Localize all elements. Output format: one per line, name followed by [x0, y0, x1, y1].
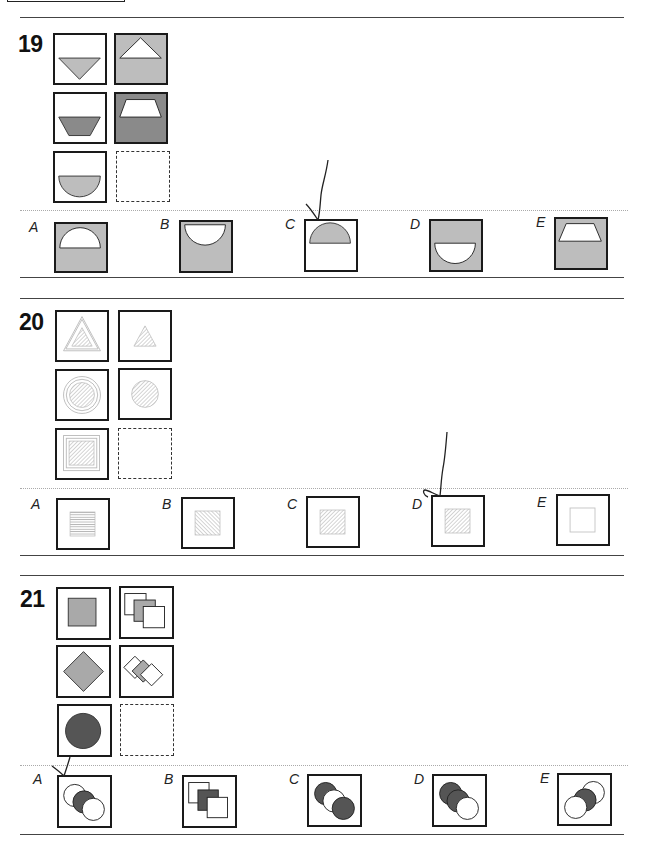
option-e[interactable] [554, 217, 608, 270]
section-divider [20, 277, 624, 278]
option-label-c: C [287, 496, 297, 512]
inverted-trapezoid-icon [55, 94, 105, 142]
hatched-square-icon [183, 499, 233, 547]
option-label-e: E [537, 494, 546, 510]
option-e[interactable] [556, 494, 610, 546]
grid-cell-r1c2 [114, 33, 168, 85]
three-overlapping-squares-icon [121, 588, 172, 637]
section-divider [20, 575, 624, 576]
option-b[interactable] [181, 497, 235, 549]
option-label-a: A [33, 771, 42, 787]
option-label-c: C [285, 216, 295, 232]
trapezoid-icon [116, 94, 166, 142]
grid-cell-r3c1 [57, 704, 112, 757]
option-c[interactable] [307, 774, 362, 827]
three-overlapping-diamonds-icon [121, 647, 172, 696]
bowl-semicircle-icon [55, 153, 105, 201]
options-separator [20, 488, 628, 489]
question-number: 21 [20, 586, 45, 613]
three-circles-icon [59, 777, 110, 826]
hatched-circle-icon [120, 370, 170, 418]
grid-cell-r3c1 [55, 428, 109, 480]
bowl-semicircle-icon [181, 222, 231, 271]
option-label-d: D [414, 771, 424, 787]
gray-square-icon [58, 589, 109, 638]
option-b[interactable] [179, 220, 233, 273]
option-a[interactable] [54, 222, 108, 273]
option-d[interactable] [429, 219, 483, 272]
option-label-b: B [164, 771, 173, 787]
grid-cell-r2c1 [53, 92, 107, 144]
option-e[interactable] [557, 773, 612, 826]
grid-cell-r2c2 [119, 645, 174, 698]
option-d[interactable] [431, 495, 485, 547]
section-divider [20, 834, 624, 835]
grid-cell-r1c1 [56, 587, 111, 640]
option-a[interactable] [56, 498, 110, 550]
triangle-icon [116, 35, 166, 83]
bowl-semicircle-icon [431, 221, 481, 270]
grid-cell-r1c2 [119, 586, 174, 639]
missing-answer-cell [116, 151, 170, 202]
options-separator [20, 210, 628, 211]
square-in-square-icon [57, 430, 107, 478]
option-c[interactable] [304, 219, 358, 272]
answer-mark-q19 [306, 160, 328, 220]
option-c[interactable] [306, 496, 360, 548]
section-divider [20, 298, 624, 299]
missing-answer-cell [118, 428, 172, 479]
three-circles-icon [309, 776, 360, 825]
circle-in-circle-icon [57, 371, 107, 419]
option-label-b: B [160, 216, 169, 232]
grid-cell-r1c1 [53, 33, 107, 85]
option-b[interactable] [182, 775, 237, 828]
answer-mark-q21 [52, 757, 70, 776]
inverted-triangle-icon [55, 35, 105, 83]
option-label-c: C [289, 771, 299, 787]
previous-section-box [7, 0, 125, 2]
option-a[interactable] [57, 775, 112, 828]
grid-cell-r2c2 [118, 368, 172, 420]
grid-cell-r2c2 [114, 92, 168, 144]
question-number: 19 [18, 31, 43, 58]
hatched-triangle-icon [120, 312, 170, 360]
section-divider [20, 17, 624, 18]
option-d[interactable] [432, 774, 487, 827]
hatched-square-icon [433, 497, 483, 545]
dome-semicircle-icon [306, 221, 356, 270]
missing-answer-cell [120, 704, 174, 756]
dark-circle-icon [59, 706, 110, 755]
trapezoid-icon [556, 219, 606, 268]
three-squares-icon [184, 777, 235, 826]
option-label-b: B [162, 496, 171, 512]
option-label-d: D [410, 216, 420, 232]
section-divider [20, 555, 624, 556]
option-label-a: A [31, 496, 40, 512]
options-separator [20, 765, 628, 766]
grid-cell-r2c1 [56, 645, 111, 698]
three-circles-icon [559, 775, 610, 824]
triangle-in-triangle-icon [57, 312, 107, 360]
grid-cell-r1c1 [55, 310, 109, 362]
option-label-e: E [536, 214, 545, 230]
outline-square-icon [558, 496, 608, 544]
grid-cell-r3c1 [53, 151, 107, 203]
grid-cell-r1c2 [118, 310, 172, 362]
hatched-square-icon [308, 498, 358, 546]
horizontal-lined-square-icon [58, 500, 108, 548]
option-label-a: A [29, 219, 38, 235]
grid-cell-r2c1 [55, 369, 109, 421]
question-number: 20 [19, 309, 44, 336]
option-label-d: D [412, 496, 422, 512]
gray-diamond-icon [58, 647, 109, 696]
dome-semicircle-icon [56, 224, 106, 271]
three-circles-icon [434, 776, 485, 825]
option-label-e: E [540, 770, 549, 786]
